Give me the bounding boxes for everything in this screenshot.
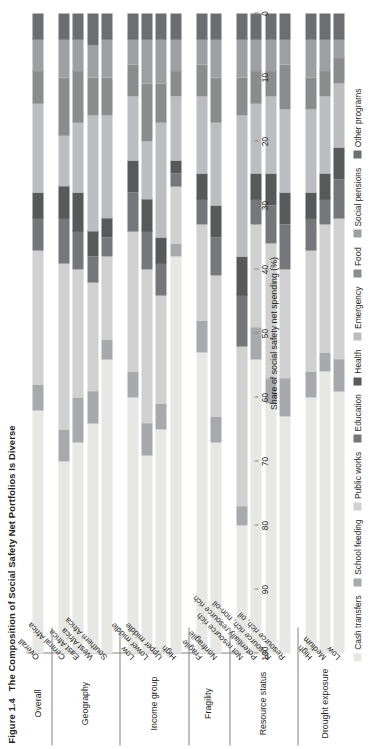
bar-segment xyxy=(170,256,181,653)
group-label: Income group xyxy=(148,661,158,745)
bar-segment xyxy=(196,96,207,173)
category-label: Potentially resource rich xyxy=(252,655,258,661)
axis-tick-label: 40 xyxy=(259,264,269,273)
bar-segment xyxy=(305,397,316,653)
legend-swatch xyxy=(353,332,361,340)
legend-item: Health xyxy=(352,349,362,385)
bar-segment xyxy=(87,115,98,231)
bar-segment xyxy=(236,345,247,505)
bar-segment xyxy=(141,269,152,423)
bar-segment xyxy=(236,77,247,116)
axis-tick xyxy=(254,588,258,589)
plot-area: 1009080706050403020100 OverallCentral Af… xyxy=(26,13,254,653)
group-separator xyxy=(51,627,52,745)
bar-row xyxy=(170,13,181,653)
axis-tick xyxy=(254,12,258,13)
axis-tick-label: 0 xyxy=(259,11,269,16)
bar-segment xyxy=(279,269,290,378)
bar-segment xyxy=(155,429,166,653)
bar-row xyxy=(196,13,207,653)
bar-segment xyxy=(236,294,247,346)
bar-segment xyxy=(72,121,83,192)
bar-segment xyxy=(32,249,43,384)
axis-tick-label: 20 xyxy=(259,136,269,145)
category-label: West Africa xyxy=(88,655,94,661)
bar-row xyxy=(141,13,152,653)
legend-item: Public works xyxy=(352,451,362,510)
legend-item: Emergency xyxy=(352,286,362,340)
bar-segment xyxy=(236,505,247,525)
bar-segment xyxy=(279,38,290,64)
category-label: Nonfragile xyxy=(212,655,218,661)
axis-tick-label: 60 xyxy=(259,392,269,401)
bar-row xyxy=(210,13,221,653)
group-label: Drought exposure xyxy=(319,661,329,745)
category-label: East Africa xyxy=(74,655,80,661)
bar-segment xyxy=(101,339,112,359)
bar-row xyxy=(127,13,138,653)
category-label: Fragile xyxy=(198,655,204,661)
bar-segment xyxy=(196,173,207,199)
bar-segment xyxy=(87,230,98,256)
bar-segment xyxy=(155,262,166,294)
bar-segment xyxy=(319,13,330,39)
category-label: Overall xyxy=(34,655,40,661)
bar-segment xyxy=(32,102,43,192)
legend-swatch xyxy=(353,653,361,661)
category-label: Medium xyxy=(321,655,327,661)
legend-label: Cash transfers xyxy=(352,595,362,649)
category-label: Southern Africa xyxy=(103,655,109,661)
bar-segment xyxy=(210,275,221,416)
bar-segment xyxy=(87,77,98,116)
legend-swatch xyxy=(353,269,361,277)
bar-segment xyxy=(170,185,181,243)
bar-segment xyxy=(333,390,344,653)
bar-segment xyxy=(155,13,166,39)
bar-segment xyxy=(319,224,330,352)
bar-segment xyxy=(155,237,166,263)
bar-segment xyxy=(170,13,181,39)
bar-segment xyxy=(210,205,221,237)
group-label: Geography xyxy=(79,661,89,745)
bar-segment xyxy=(101,38,112,77)
bar-segment xyxy=(305,249,316,371)
bar-segment xyxy=(127,160,138,192)
bar-segment xyxy=(279,416,290,653)
bar-segment xyxy=(101,256,112,340)
bar-row xyxy=(87,13,98,653)
axis-tick xyxy=(254,524,258,525)
bar-segment xyxy=(58,13,69,39)
bar-segment xyxy=(141,141,152,199)
bar-segment xyxy=(141,38,152,83)
bar-segment xyxy=(250,38,261,70)
bar-segment xyxy=(196,224,207,320)
bar-row xyxy=(155,13,166,653)
page-title: Figure 1.4The Composition of Social Safe… xyxy=(5,425,16,743)
bar-segment xyxy=(72,38,83,70)
group-label: Fragility xyxy=(202,661,212,745)
bar-segment xyxy=(250,224,261,327)
bar-segment xyxy=(141,83,152,141)
bar-segment xyxy=(127,96,138,160)
bar-segment xyxy=(127,230,138,371)
bar-segment xyxy=(236,13,247,39)
bar-segment xyxy=(170,96,181,160)
bar-segment xyxy=(32,384,43,410)
bar-segment xyxy=(87,256,98,282)
bar-segment xyxy=(170,38,181,70)
bar-segment xyxy=(319,371,330,653)
bar-segment xyxy=(170,70,181,96)
bar-row xyxy=(236,13,247,653)
bar-segment xyxy=(101,237,112,257)
bar-segment xyxy=(210,416,221,442)
bar-row xyxy=(32,13,43,653)
bar-segment xyxy=(333,147,344,179)
bar-segment xyxy=(305,217,316,249)
bar-segment xyxy=(127,13,138,39)
legend-label: Other programs xyxy=(352,88,362,147)
bar-segment xyxy=(101,217,112,237)
bar-segment xyxy=(32,70,43,102)
bar-segment xyxy=(279,192,290,224)
bar-row xyxy=(58,13,69,653)
legend-label: Health xyxy=(352,349,362,373)
